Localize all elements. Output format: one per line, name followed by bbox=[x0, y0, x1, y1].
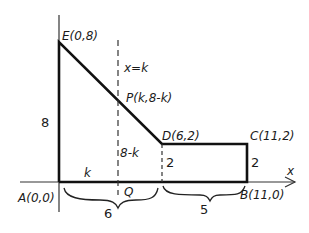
label-point-q: Q bbox=[124, 185, 133, 199]
label-point-a: A(0,0) bbox=[17, 191, 55, 205]
label-seg-8-minus-k: 8-k bbox=[120, 146, 140, 160]
label-height-8: 8 bbox=[41, 115, 49, 130]
label-brace-6: 6 bbox=[104, 206, 112, 221]
label-c-height: 2 bbox=[251, 155, 259, 170]
label-point-c: C(11,2) bbox=[250, 129, 294, 143]
label-brace-5: 5 bbox=[200, 202, 208, 217]
label-d-height: 2 bbox=[166, 155, 174, 170]
label-point-e: E(0,8) bbox=[62, 29, 98, 43]
brace-5 bbox=[163, 186, 245, 201]
label-axis-x: x bbox=[286, 164, 295, 178]
brace-6 bbox=[64, 188, 158, 208]
label-point-d: D(6,2) bbox=[162, 129, 200, 143]
label-point-b: B(11,0) bbox=[240, 188, 284, 202]
label-point-p: P(k,8-k) bbox=[126, 91, 172, 105]
diagram-canvas: E(0,8) x=k P(k,8-k) D(6,2) C(11,2) B(11,… bbox=[0, 0, 309, 233]
label-line-x-k: x=k bbox=[123, 61, 149, 75]
label-seg-k: k bbox=[84, 166, 92, 180]
polygon-shape bbox=[59, 42, 247, 182]
